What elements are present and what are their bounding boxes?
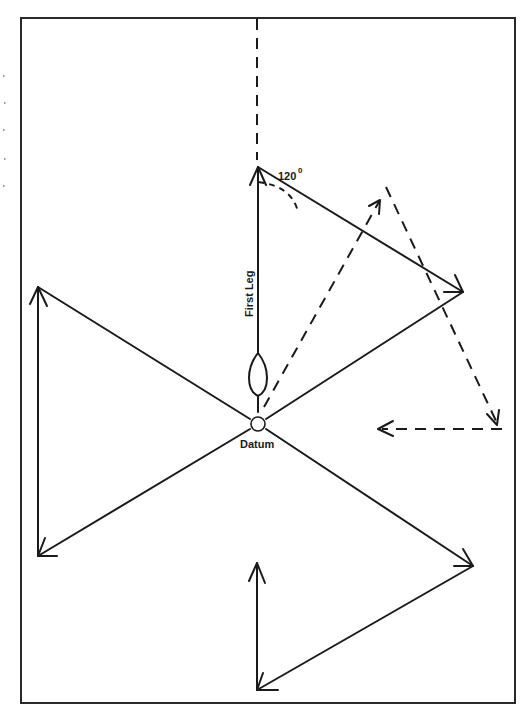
sector-2: [30, 287, 250, 556]
scan-specks: [3, 75, 6, 187]
leg-datum-to-lower-right: [266, 429, 473, 566]
first-leg-label: First Leg: [243, 271, 255, 317]
datum-label: Datum: [240, 438, 274, 450]
vessel-icon: [249, 353, 267, 396]
third-leg-line: [266, 292, 463, 419]
second-search-pattern: [264, 187, 502, 436]
sector-search-diagram: 120 0 First L: [0, 0, 524, 724]
leg-lower-right-to-bottom: [257, 566, 473, 690]
diagram-frame: [21, 18, 515, 703]
second-leg-line: [258, 167, 463, 292]
leg-upper-left-to-datum: [38, 287, 250, 419]
sector-1: [250, 167, 463, 419]
datum-marker: [251, 417, 265, 431]
angle-arc: [258, 182, 298, 212]
leg-datum-to-lower-left: [38, 429, 250, 556]
angle-degree-symbol: 0: [298, 166, 303, 175]
sector-3: [249, 429, 473, 690]
